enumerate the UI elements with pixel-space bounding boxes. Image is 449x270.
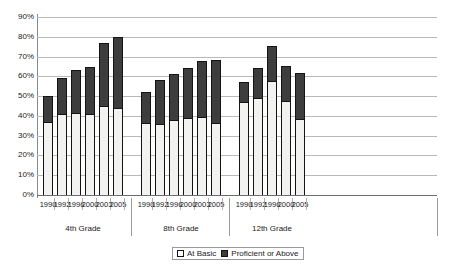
plot-right-edge: [437, 198, 438, 236]
gridline: [37, 17, 437, 18]
bar-4th-grade-2000: [85, 67, 95, 195]
stacked-bar-chart: 90%80%70%60%50%40%30%20%10%0% At Basic P…: [0, 0, 449, 270]
y-axis-tick-label: 60%: [1, 72, 34, 80]
bar-8th-grade-1996: [169, 74, 179, 195]
gridline: [37, 175, 437, 176]
group-separator: [131, 198, 132, 236]
plot-inner: [37, 17, 437, 195]
y-axis-tick-label: 80%: [1, 33, 34, 41]
bar-8th-grade-2005: [211, 60, 221, 195]
bar-segment-proficient-or-above: [253, 68, 263, 98]
bar-4th-grade-2003: [99, 43, 109, 195]
legend-item-at-basic: At Basic: [177, 249, 216, 258]
bar-segment-at-basic: [197, 117, 207, 195]
bar-segment-at-basic: [99, 106, 109, 195]
bar-12th-grade-1996: [267, 46, 277, 195]
bar-segment-proficient-or-above: [155, 80, 165, 124]
bar-segment-proficient-or-above: [281, 66, 291, 101]
bar-4th-grade-1990: [43, 96, 53, 195]
bar-segment-at-basic: [71, 113, 81, 195]
x-axis-year-label: 2005: [105, 201, 131, 209]
plot-area: [37, 17, 437, 195]
bar-4th-grade-2005: [113, 37, 123, 195]
bar-segment-proficient-or-above: [113, 37, 123, 108]
dark-square-swatch-icon: [221, 250, 228, 257]
bar-segment-at-basic: [113, 108, 123, 195]
gridline: [37, 37, 437, 38]
bar-segment-at-basic: [239, 102, 249, 195]
legend-label-at-basic: At Basic: [187, 249, 216, 258]
bar-segment-proficient-or-above: [141, 92, 151, 123]
bar-segment-at-basic: [85, 114, 95, 195]
gridline: [37, 96, 437, 97]
gridline: [37, 76, 437, 77]
legend-label-proficient-or-above: Proficient or Above: [231, 249, 298, 258]
bar-segment-proficient-or-above: [169, 74, 179, 119]
group-separator: [229, 198, 230, 236]
bar-8th-grade-1990: [141, 92, 151, 195]
bar-segment-at-basic: [183, 118, 193, 195]
bar-segment-at-basic: [295, 119, 305, 195]
gridline: [37, 155, 437, 156]
x-axis-minor-tick: [124, 198, 125, 210]
bar-segment-proficient-or-above: [183, 68, 193, 117]
bar-segment-at-basic: [211, 123, 221, 195]
bar-4th-grade-1992: [57, 78, 67, 195]
gridline: [37, 136, 437, 137]
light-square-swatch-icon: [177, 250, 184, 257]
x-axis-group-label: 12th Grade: [219, 224, 325, 233]
chart-legend: At Basic Proficient or Above: [172, 247, 304, 260]
bar-segment-proficient-or-above: [211, 60, 221, 123]
y-axis-tick-label: 40%: [1, 112, 34, 120]
bar-segment-proficient-or-above: [239, 82, 249, 102]
bar-12th-grade-2000: [281, 66, 291, 195]
legend-item-proficient-or-above: Proficient or Above: [221, 249, 298, 258]
bar-segment-proficient-or-above: [85, 67, 95, 113]
gridline: [37, 57, 437, 58]
bar-12th-grade-1992: [253, 68, 263, 195]
x-axis-minor-tick: [222, 198, 223, 210]
x-axis-minor-tick: [306, 198, 307, 210]
y-axis-tick-label: 0%: [1, 191, 34, 199]
x-axis-year-label: 2005: [203, 201, 229, 209]
y-axis-tick-label: 30%: [1, 132, 34, 140]
bar-8th-grade-2000: [183, 68, 193, 195]
bar-segment-proficient-or-above: [57, 78, 67, 114]
x-axis-line: [37, 195, 437, 196]
y-axis-tick-label: 10%: [1, 171, 34, 179]
bar-8th-grade-1992: [155, 80, 165, 195]
bar-segment-proficient-or-above: [71, 70, 81, 113]
bar-12th-grade-2005: [295, 73, 305, 195]
bar-segment-proficient-or-above: [295, 73, 305, 118]
bar-segment-proficient-or-above: [197, 61, 207, 117]
y-axis-tick-label: 20%: [1, 151, 34, 159]
bar-segment-at-basic: [57, 114, 67, 195]
bar-segment-at-basic: [155, 124, 165, 195]
bar-segment-at-basic: [43, 122, 53, 195]
x-axis-year-label: 2005: [287, 201, 313, 209]
gridline: [37, 116, 437, 117]
bar-8th-grade-2003: [197, 61, 207, 195]
bar-segment-at-basic: [281, 101, 291, 195]
y-axis-tick-label: 50%: [1, 92, 34, 100]
bar-segment-at-basic: [267, 81, 277, 195]
bar-segment-at-basic: [141, 123, 151, 195]
bar-segment-proficient-or-above: [267, 46, 277, 82]
bar-segment-at-basic: [169, 120, 179, 195]
bar-segment-proficient-or-above: [43, 96, 53, 122]
bar-segment-at-basic: [253, 98, 263, 195]
bar-segment-proficient-or-above: [99, 43, 109, 106]
bar-12th-grade-1990: [239, 82, 249, 195]
bar-4th-grade-1996: [71, 70, 81, 195]
y-axis-tick-label: 90%: [1, 13, 34, 21]
y-axis-tick-label: 70%: [1, 53, 34, 61]
